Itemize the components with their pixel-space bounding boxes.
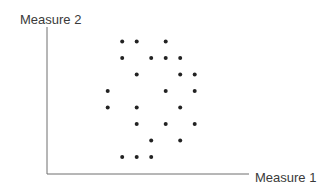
data-point [135,155,139,159]
data-point [149,155,153,159]
data-point [193,73,197,77]
data-point [164,56,168,60]
data-point [193,122,197,126]
x-axis-label: Measure 1 [255,171,316,184]
data-point [164,122,168,126]
data-point [135,106,139,110]
data-point [149,56,153,60]
data-point [120,56,124,60]
data-point [135,40,139,44]
data-point [106,106,110,110]
data-point [178,56,182,60]
data-point [193,89,197,93]
data-point [106,89,110,93]
data-points [106,40,197,160]
plot-area [0,0,332,185]
scatter-chart: Measure 2 Measure 1 [0,0,332,185]
data-point [120,40,124,44]
y-axis-label: Measure 2 [20,13,81,26]
data-point [135,73,139,77]
data-point [149,139,153,143]
data-point [164,89,168,93]
data-point [135,122,139,126]
data-point [120,155,124,159]
data-point [178,73,182,77]
data-point [164,40,168,44]
data-point [178,139,182,143]
data-point [178,106,182,110]
